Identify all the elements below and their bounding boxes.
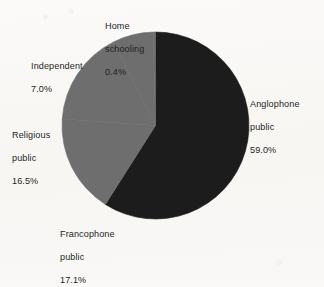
slice-label-anglophone-public-percent: 59.0% [250,145,300,156]
slice-label-home-schooling-name-line2: schooling [105,44,144,55]
slice-label-anglophone-public-name-line1: Anglophone [250,99,300,110]
slice-label-religious-public-name-line2: public [12,153,50,164]
slice-label-anglophone-public: Anglophone public 59.0% [250,88,300,168]
slice-label-religious-public: Religious public 16.5% [12,119,50,199]
slice-label-anglophone-public-name-line2: public [250,122,300,133]
slice-label-home-schooling-name-line1: Home [105,21,144,32]
slice-label-independent-name: Independent [31,61,83,72]
slice-label-independent: Independent 7.0% [31,50,83,107]
slice-label-francophone-public-name-line1: Francophone [60,229,115,240]
slice-label-francophone-public-name-line2: public [60,252,115,263]
slice-label-francophone-public-percent: 17.1% [60,275,115,286]
slice-label-religious-public-percent: 16.5% [12,176,50,187]
slice-label-francophone-public: Francophone public 17.1% [60,218,115,287]
slice-label-independent-percent: 7.0% [31,84,83,95]
slice-label-home-schooling-percent: 0.4% [105,67,144,78]
slice-label-religious-public-name-line1: Religious [12,130,50,141]
slice-label-home-schooling: Home schooling 0.4% [105,10,144,90]
pie-slice-group [62,32,249,219]
